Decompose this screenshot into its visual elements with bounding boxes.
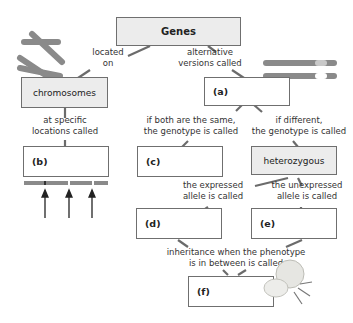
edge-label-expressed: the expressedallele is called [168,180,258,202]
edge-label-unexpressed: the unexpressedallele is called [262,180,352,202]
edge-label-specific-locations: at specificlocations called [20,115,110,137]
box-a-label: (a) [213,86,228,97]
chromosome-loci-illustration [22,180,112,220]
answer-box-d[interactable]: (d) [136,208,222,239]
box-b-label: (b) [32,156,47,167]
heterozygous-node: heterozygous [251,146,337,175]
edge-label-different-genotype: if different,the genotype is called [244,115,353,137]
box-f-label: (f) [197,286,210,297]
answer-box-b[interactable]: (b) [23,146,109,177]
genes-label: Genes [161,26,196,37]
answer-box-a[interactable]: (a) [204,77,290,106]
edge-label-same-genotype: if both are the same,the genotype is cal… [136,115,246,137]
genes-node: Genes [116,17,241,46]
chromosome-pair-illustration [12,28,72,83]
chromosomes-label: chromosomes [33,88,96,98]
answer-box-c[interactable]: (c) [137,146,223,177]
box-e-label: (e) [260,218,275,229]
flower-illustration [262,258,317,308]
edge-label-alternative-versions: alternativeversions called [170,47,250,69]
chromosomes-node: chromosomes [21,77,108,108]
answer-box-e[interactable]: (e) [251,208,337,239]
edge-label-located-on: locatedon [88,47,128,69]
box-d-label: (d) [145,218,160,229]
heterozygous-label: heterozygous [264,156,325,166]
box-c-label: (c) [146,156,160,167]
